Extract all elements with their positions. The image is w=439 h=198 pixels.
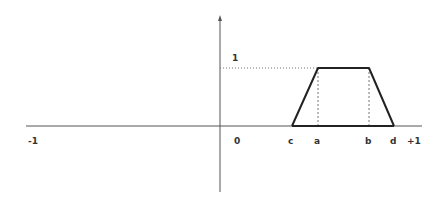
label-origin: 0 (234, 136, 240, 146)
label-x-max: +1 (407, 136, 421, 146)
trapezoid-shape (292, 68, 394, 126)
label-y-one: 1 (232, 53, 238, 63)
label-a: a (314, 136, 320, 146)
label-b: b (365, 136, 372, 146)
label-c: c (288, 136, 293, 146)
label-d: d (390, 136, 396, 146)
y-axis-arrow-icon (218, 15, 222, 21)
label-x-min: -1 (28, 136, 38, 146)
membership-diagram: 1 -1 0 c a b d +1 (0, 0, 439, 198)
